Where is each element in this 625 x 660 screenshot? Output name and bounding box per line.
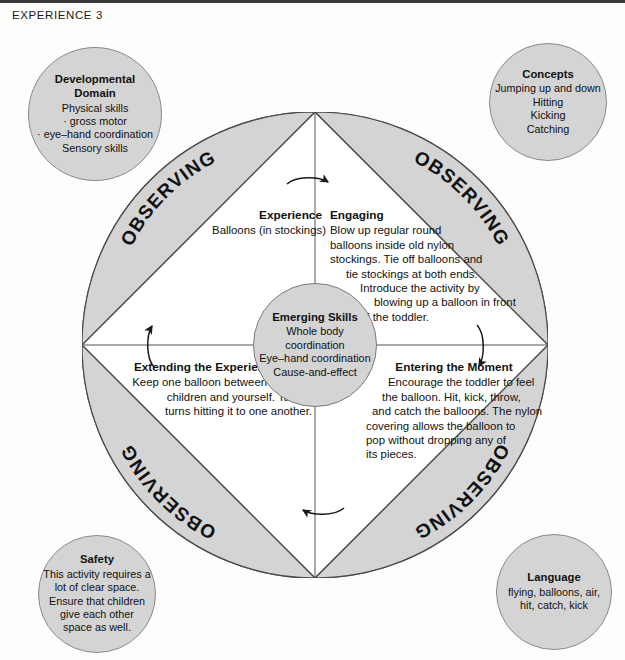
quadrant-entering-title: Entering the Moment <box>366 360 542 374</box>
quadrant-experience-title: Experience <box>204 208 326 222</box>
developmental-domain-line: Sensory skills <box>62 142 128 155</box>
safety-line: lot of clear space. <box>55 581 140 594</box>
language-circle: Language flying, balloons, air, hit, cat… <box>496 534 612 650</box>
developmental-domain-line: · gross motor <box>63 115 127 128</box>
quadrant-entering-line: its pieces. <box>366 447 542 461</box>
quadrant-experience-line: Balloons (in stockings) <box>204 223 326 237</box>
quadrant-engaging-line: stockings. Tie off balloons and <box>330 252 526 266</box>
emerging-skills-title: Emerging Skills <box>272 311 357 325</box>
page-canvas: EXPERIENCE 3 <box>0 0 625 660</box>
quadrant-entering-line: Encourage the toddler to feel <box>366 375 542 389</box>
quadrant-entering-the-moment: Entering the Moment Encourage the toddle… <box>366 360 542 462</box>
emerging-skills-line: coordination <box>285 339 344 353</box>
safety-line: give each other <box>60 608 134 621</box>
quadrant-experience: Experience Balloons (in stockings) <box>204 208 326 238</box>
quadrant-engaging-line: Introduce the activity by <box>330 281 526 295</box>
quadrant-engaging-line: Blow up regular round <box>330 223 526 237</box>
quadrant-entering-line: the balloon. Hit, kick, throw, <box>366 390 542 404</box>
emerging-skills-line: Whole body <box>286 325 344 339</box>
concepts-circle: Concepts Jumping up and down Hitting Kic… <box>489 43 607 161</box>
emerging-skills-line: Cause-and-effect <box>273 366 356 380</box>
concepts-line: Kicking <box>531 109 566 122</box>
page-title: EXPERIENCE 3 <box>12 9 103 21</box>
concepts-title: Concepts <box>522 68 573 81</box>
language-title: Language <box>527 571 580 584</box>
safety-line: This activity requires a <box>43 568 150 581</box>
safety-line: space as well. <box>63 621 131 634</box>
page-top-rule <box>0 0 625 3</box>
language-line: flying, balloons, air, <box>508 586 600 599</box>
safety-circle: Safety This activity requires a lot of c… <box>38 535 156 653</box>
quadrant-entering-line: and catch the balloons. The nylon <box>366 404 542 418</box>
emerging-skills-line: Eye–hand coordination <box>259 352 370 366</box>
quadrant-extending-line: turns hitting it to one another. <box>100 404 312 418</box>
language-line: hit, catch, kick <box>520 599 588 612</box>
developmental-domain-line: Physical skills <box>62 102 129 115</box>
safety-line: Ensure that children <box>49 595 145 608</box>
developmental-domain-line: · eye–hand coordination <box>37 128 153 141</box>
quadrant-entering-line: pop without dropping any of <box>366 433 542 447</box>
concepts-line: Jumping up and down <box>495 82 601 95</box>
quadrant-engaging-title: Engaging <box>330 208 526 222</box>
emerging-skills-circle: Emerging Skills Whole body coordination … <box>253 283 377 407</box>
concepts-line: Catching <box>527 123 570 136</box>
quadrant-engaging-line: balloons inside old nylon <box>330 238 526 252</box>
concepts-line: Hitting <box>533 96 564 109</box>
developmental-domain-title-line1: Developmental <box>55 73 135 86</box>
developmental-domain-circle: Developmental Domain Physical skills · g… <box>28 47 162 181</box>
developmental-domain-title-line2: Domain <box>74 87 115 100</box>
safety-title: Safety <box>80 553 114 566</box>
quadrant-entering-line: covering allows the balloon to <box>366 419 542 433</box>
quadrant-engaging-line: tie stockings at both ends. <box>330 267 526 281</box>
